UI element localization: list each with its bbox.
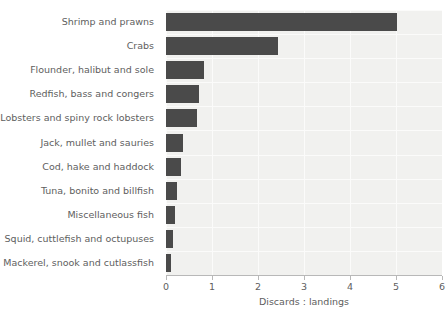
gridline-vertical (304, 10, 305, 275)
category-label: Jack, mullet and sauries (0, 137, 160, 148)
category-label: Cod, hake and haddock (0, 161, 160, 172)
x-axis-tick (166, 276, 167, 280)
category-label: Tuna, bonito and billfish (0, 185, 160, 196)
gridline-horizontal (166, 34, 442, 35)
gridline-vertical (350, 10, 351, 275)
category-axis-labels: Shrimp and prawnsCrabsFlounder, halibut … (0, 10, 160, 275)
gridline-horizontal (166, 203, 442, 204)
x-axis-title: Discards : landings (166, 296, 442, 308)
gridline-horizontal (166, 179, 442, 180)
gridline-horizontal (166, 106, 442, 107)
gridline-vertical (396, 10, 397, 275)
bar (166, 61, 204, 79)
bar (166, 206, 175, 224)
plot-area (166, 10, 442, 275)
gridline-horizontal (166, 227, 442, 228)
bar (166, 254, 171, 272)
x-axis-tick (442, 276, 443, 280)
category-label: Lobsters and spiny rock lobsters (0, 112, 160, 123)
gridline-horizontal (166, 155, 442, 156)
bar (166, 13, 397, 31)
category-label: Flounder, halibut and sole (0, 64, 160, 75)
bar (166, 109, 197, 127)
gridline-horizontal (166, 130, 442, 131)
category-label: Miscellaneous fish (0, 209, 160, 220)
x-axis-tick (350, 276, 351, 280)
gridline-horizontal (166, 82, 442, 83)
category-label: Mackerel, snook and cutlassfish (0, 257, 160, 268)
bar (166, 230, 173, 248)
x-axis-tick (304, 276, 305, 280)
bar (166, 85, 199, 103)
x-axis-tick-label: 5 (381, 281, 411, 293)
x-axis-tick-label: 1 (197, 281, 227, 293)
x-axis-tick-label: 0 (151, 281, 181, 293)
gridline-horizontal (166, 58, 442, 59)
bar-chart-figure: Shrimp and prawnsCrabsFlounder, halibut … (0, 0, 446, 327)
gridline-horizontal (166, 10, 442, 11)
category-label: Redfish, bass and congers (0, 88, 160, 99)
bar (166, 134, 183, 152)
category-label: Squid, cuttlefish and octupuses (0, 233, 160, 244)
x-axis-tick (212, 276, 213, 280)
bar (166, 158, 181, 176)
x-axis-tick-label: 6 (427, 281, 446, 293)
category-label: Crabs (0, 40, 160, 51)
bar (166, 37, 278, 55)
gridline-horizontal (166, 251, 442, 252)
category-label: Shrimp and prawns (0, 16, 160, 27)
x-axis-tick-label: 4 (335, 281, 365, 293)
x-axis-tick (258, 276, 259, 280)
x-axis-tick-label: 2 (243, 281, 273, 293)
bar (166, 182, 177, 200)
x-axis-tick (396, 276, 397, 280)
x-axis-tick-label: 3 (289, 281, 319, 293)
